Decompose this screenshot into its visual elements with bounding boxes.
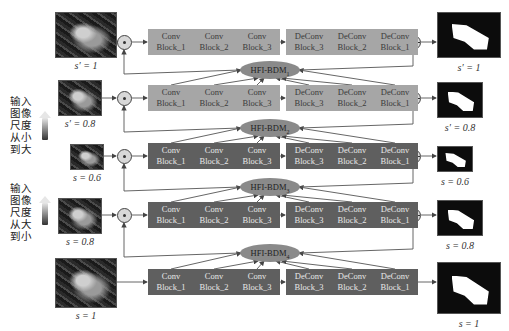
block-index-label: Block_1 [148,156,194,167]
block-type-label: Conv [234,31,280,42]
conv-block-1: ConvBlock_1 [148,143,194,169]
conv-block-1: ConvBlock_1 [148,269,194,295]
block-type-label: Conv [191,31,237,42]
input-image [55,258,117,308]
block-type-label: DeConv [286,271,332,282]
block-index-label: Block_2 [329,42,375,53]
side-label-line: 到大 [10,144,38,156]
side-label-line: 输入 [10,96,38,108]
block-type-label: Conv [148,145,194,156]
block-index-label: Block_3 [234,282,280,293]
side-label-line: 输入 [10,183,38,195]
block-index-label: Block_3 [286,282,332,293]
elementwise-multiply-icon [117,35,132,50]
block-index-label: Block_2 [191,156,237,167]
deconv-block-2: DeConvBlock_2 [329,29,375,55]
block-index-label: Block_1 [148,215,194,226]
block-index-label: Block_3 [234,42,280,53]
block-index-label: Block_1 [372,42,418,53]
deconv-block-3: DeConvBlock_3 [286,269,332,295]
module-name: HFI-BDM [251,248,287,258]
block-index-label: Block_3 [234,215,280,226]
block-type-label: Conv [234,87,280,98]
block-index-label: Block_3 [286,215,332,226]
elementwise-multiply-icon [117,208,132,223]
up-arrow-icon [39,111,51,118]
conv-block-1: ConvBlock_1 [148,85,194,111]
block-index-label: Block_2 [191,98,237,109]
input-image [55,12,117,58]
block-index-label: Block_3 [286,42,332,53]
conv-block-3: ConvBlock_3 [234,202,280,228]
input-scale-label: s′ = 1 [56,60,116,71]
output-mask-image [437,12,501,58]
deconv-block-3: DeConvBlock_3 [286,143,332,169]
conv-block-2: ConvBlock_2 [191,269,237,295]
gradient-arrow-bar [42,203,48,225]
conv-block-2: ConvBlock_2 [191,202,237,228]
block-index-label: Block_3 [234,98,280,109]
block-type-label: Conv [191,271,237,282]
block-index-label: Block_3 [234,156,280,167]
input-scale-label: s = 0.8 [50,236,110,247]
block-type-label: Conv [191,204,237,215]
hfi-bdm-module: HFI-BDM1 [240,61,300,79]
deconv-block-2: DeConvBlock_2 [329,143,375,169]
block-index-label: Block_1 [148,282,194,293]
block-index-label: Block_1 [372,215,418,226]
input-scale-label: s′ = 0.8 [50,118,110,129]
block-type-label: DeConv [329,31,375,42]
block-type-label: DeConv [329,87,375,98]
module-name: HFI-BDM [251,65,287,75]
side-label-line: 图像 [10,108,38,120]
side-label-line: 从大 [10,219,38,231]
block-type-label: Conv [148,31,194,42]
block-index-label: Block_1 [148,98,194,109]
deconv-block-2: DeConvBlock_2 [329,202,375,228]
block-type-label: Conv [191,87,237,98]
input-scale-label: s = 0.6 [57,172,117,183]
block-type-label: DeConv [286,145,332,156]
block-index-label: Block_2 [191,282,237,293]
input-image [70,144,104,170]
side-label-line: 尺度 [10,207,38,219]
block-index-label: Block_2 [329,282,375,293]
elementwise-multiply-icon [117,91,132,106]
block-type-label: DeConv [329,145,375,156]
side-label-line: 到小 [10,231,38,243]
deconv-block-3: DeConvBlock_3 [286,202,332,228]
block-index-label: Block_1 [372,156,418,167]
side-label-line: 图像 [10,195,38,207]
block-type-label: DeConv [372,145,418,156]
multiscale-network-diagram: 输入 图像 尺度 从小 到大 输入 图像 尺度 从大 到小 s′ = 1s′ =… [0,0,509,331]
output-scale-label: s′ = 1 [439,62,499,73]
side-label-large-to-small: 输入 图像 尺度 从大 到小 [10,183,38,243]
block-type-label: Conv [191,145,237,156]
block-type-label: Conv [148,87,194,98]
deconv-block-1: DeConvBlock_1 [372,143,418,169]
conv-block-3: ConvBlock_3 [234,29,280,55]
hfi-bdm-module: HFI-BDM3 [240,178,300,196]
conv-block-2: ConvBlock_2 [191,143,237,169]
output-mask-image [437,262,501,314]
output-scale-label: s = 0.6 [425,176,485,187]
block-index-label: Block_1 [372,282,418,293]
input-image [58,198,102,234]
hfi-bdm-module: HFI-BDM2 [240,119,300,137]
module-index: 2 [286,129,289,135]
output-scale-label: s′ = 0.8 [430,122,490,133]
deconv-block-2: DeConvBlock_2 [329,269,375,295]
block-index-label: Block_3 [286,156,332,167]
block-type-label: DeConv [372,31,418,42]
conv-block-1: ConvBlock_1 [148,202,194,228]
block-type-label: DeConv [286,31,332,42]
deconv-block-3: DeConvBlock_3 [286,85,332,111]
conv-block-1: ConvBlock_1 [148,29,194,55]
block-type-label: Conv [234,271,280,282]
deconv-block-1: DeConvBlock_1 [372,29,418,55]
output-scale-label: s = 1 [439,318,499,329]
output-mask-image [437,82,483,118]
block-index-label: Block_1 [148,42,194,53]
input-image [58,80,102,116]
side-label-small-to-large: 输入 图像 尺度 从小 到大 [10,96,38,156]
